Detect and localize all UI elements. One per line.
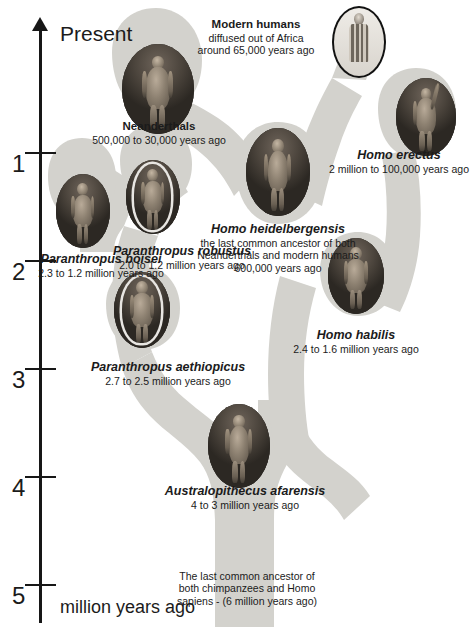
modern-humans-name: Modern humans bbox=[176, 18, 336, 32]
paranthropus-boisei-photo bbox=[56, 174, 110, 248]
root-ancestor-detail-3: sapiens - (6 million years ago) bbox=[172, 595, 322, 607]
axis-tick-1 bbox=[25, 152, 56, 154]
axis-tick-label-5: 5 bbox=[12, 584, 25, 608]
australopithecus-afarensis-detail: 4 to 3 million years ago bbox=[148, 499, 342, 511]
evolutionary-tree-figure: 1 2 3 4 5 Present million years ago bbox=[0, 0, 476, 627]
paranthropus-robustus-detail: 2.0 to 1.2 million years ago bbox=[94, 259, 270, 271]
homo-habilis-name: Homo habilis bbox=[276, 328, 436, 343]
modern-humans-photo bbox=[334, 8, 384, 76]
time-axis-arrow-icon bbox=[32, 17, 48, 31]
neanderthals-detail: 500,000 to 30,000 years ago bbox=[54, 134, 264, 146]
label-homo-erectus: Homo erectus 2 million to 100,000 years … bbox=[322, 148, 476, 175]
paranthropus-aethiopicus-photo bbox=[114, 272, 170, 348]
modern-humans-detail-2: around 65,000 years ago bbox=[176, 44, 336, 56]
homo-habilis-detail: 2.4 to 1.6 million years ago bbox=[276, 343, 436, 355]
paranthropus-aethiopicus-name: Paranthropus aethiopicus bbox=[72, 360, 264, 375]
label-australopithecus-afarensis: Australopithecus afarensis 4 to 3 millio… bbox=[148, 484, 342, 511]
modern-humans-detail: diffused out of Africa bbox=[176, 32, 336, 44]
label-homo-habilis: Homo habilis 2.4 to 1.6 million years ag… bbox=[276, 328, 436, 355]
axis-tick-3 bbox=[25, 368, 56, 370]
label-root-ancestor: The last common ancestor of both chimpan… bbox=[172, 570, 322, 607]
paranthropus-aethiopicus-detail: 2.7 to 2.5 million years ago bbox=[72, 375, 264, 387]
axis-tick-label-4: 4 bbox=[12, 476, 25, 500]
axis-tick-5 bbox=[25, 584, 56, 586]
paranthropus-robustus-name: Paranthropus robustus bbox=[94, 244, 270, 259]
axis-present-label: Present bbox=[60, 22, 132, 46]
homo-erectus-name: Homo erectus bbox=[322, 148, 476, 163]
axis-tick-label-1: 1 bbox=[12, 152, 25, 176]
label-neanderthals: Neanderthals 500,000 to 30,000 years ago bbox=[54, 120, 264, 146]
australopithecus-afarensis-photo bbox=[208, 404, 270, 488]
axis-tick-4 bbox=[25, 476, 56, 478]
label-paranthropus-aethiopicus: Paranthropus aethiopicus 2.7 to 2.5 mill… bbox=[72, 360, 264, 387]
root-ancestor-detail: The last common ancestor of bbox=[172, 570, 322, 582]
homo-heidelbergensis-name: Homo heidelbergensis bbox=[150, 222, 406, 237]
label-paranthropus-robustus: Paranthropus robustus 2.0 to 1.2 million… bbox=[94, 244, 270, 271]
homo-erectus-detail: 2 million to 100,000 years ago bbox=[322, 163, 476, 175]
time-axis-line bbox=[39, 26, 42, 623]
homo-erectus-photo bbox=[396, 78, 456, 156]
australopithecus-afarensis-name: Australopithecus afarensis bbox=[148, 484, 342, 499]
label-modern-humans: Modern humans diffused out of Africa aro… bbox=[176, 18, 336, 56]
root-ancestor-detail-2: both chimpanzees and Homo bbox=[172, 582, 322, 594]
neanderthals-name: Neanderthals bbox=[54, 120, 264, 134]
axis-tick-label-3: 3 bbox=[12, 368, 25, 392]
